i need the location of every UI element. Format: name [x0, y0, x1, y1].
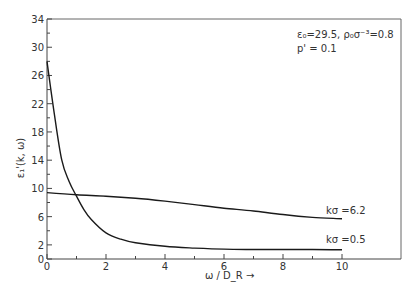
y-ticks: 02610141822263034 [31, 14, 52, 265]
plot-frame [47, 19, 401, 259]
chart: 02610141822263034 0246810 kσ =0.5 kσ =6.… [0, 0, 416, 292]
y-tick-label: 6 [38, 212, 44, 223]
x-tick-label: 8 [280, 261, 286, 272]
y-tick-label: 30 [31, 42, 44, 53]
curves [47, 61, 342, 249]
parameter-annotation-line2: p' = 0.1 [297, 43, 337, 54]
x-tick-label: 2 [103, 261, 109, 272]
parameter-annotation-line1: ε₀=29.5, ρ₀σ⁻³=0.8 [297, 29, 394, 40]
y-tick-label: 26 [31, 70, 44, 81]
y-tick-label: 2 [38, 240, 44, 251]
x-tick-label: 4 [162, 261, 168, 272]
y-tick-label: 10 [31, 183, 44, 194]
curve-k-sigma-6-2 [47, 193, 342, 219]
series-label-k-sigma-0-5: kσ =0.5 [326, 234, 366, 245]
series-label-k-sigma-6-2: kσ =6.2 [326, 205, 366, 216]
y-axis-label: ε₁'(k, ω) [15, 138, 26, 179]
axes [47, 19, 401, 259]
x-ticks: 0246810 [44, 254, 349, 272]
x-tick-label: 0 [44, 261, 50, 272]
y-tick-label: 22 [31, 99, 44, 110]
y-tick-label: 14 [31, 155, 44, 166]
y-tick-label: 18 [31, 127, 44, 138]
y-tick-label: 34 [31, 14, 44, 25]
x-tick-label: 10 [336, 261, 349, 272]
x-axis-label: ω / D_R → [205, 270, 254, 282]
curve-k-sigma-0-5 [47, 61, 342, 249]
